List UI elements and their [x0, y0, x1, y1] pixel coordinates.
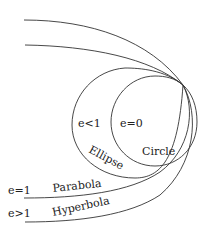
- conic-sections-diagram: e<1 e=0 Ellipse Circle e=1 Parabola e>1 …: [0, 0, 211, 235]
- parabola-upper-branch: [25, 45, 183, 85]
- parabola-lower-branch: [24, 85, 189, 198]
- parabola-name-label: Parabola: [52, 177, 103, 195]
- hyperbola-condition-label: e>1: [8, 207, 31, 220]
- ellipse-condition-label: e<1: [78, 117, 101, 130]
- circle-name-label: Circle: [142, 145, 175, 158]
- ellipse-name-label: Ellipse: [87, 143, 126, 172]
- circle-condition-label: e=0: [120, 117, 143, 130]
- hyperbola-name-label: Hyperbola: [51, 194, 111, 219]
- parabola-condition-label: e=1: [8, 184, 31, 197]
